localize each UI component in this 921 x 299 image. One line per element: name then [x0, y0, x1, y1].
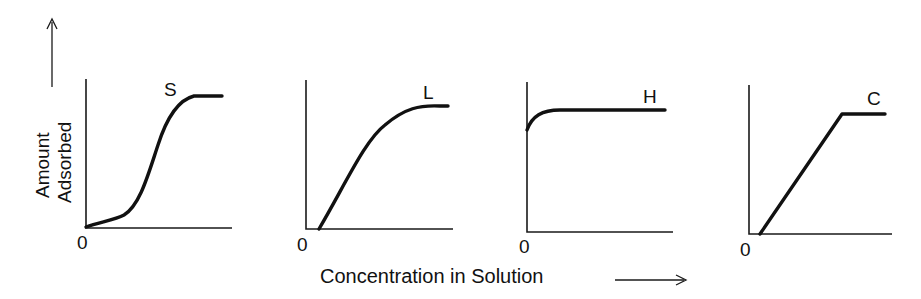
adsorption-isotherms-figure: Amount Adsorbed S 0 L 0 H 0 C 0 Concentr… — [0, 0, 921, 299]
panel-c-origin: 0 — [740, 239, 751, 260]
y-axis-label-line2: Adsorbed — [54, 122, 75, 203]
x-axis-arrow — [615, 275, 686, 285]
y-axis-label-line1: Amount — [32, 132, 53, 198]
panel-s-origin: 0 — [77, 232, 88, 253]
panel-l-curve — [319, 106, 448, 229]
panel-h: H 0 — [519, 82, 673, 257]
x-axis-label: Concentration in Solution — [320, 265, 543, 287]
panel-s: S 0 — [77, 79, 232, 253]
panel-s-curve — [86, 96, 222, 227]
y-axis-arrow — [47, 19, 57, 87]
panel-l-origin: 0 — [297, 234, 308, 255]
panel-s-label: S — [164, 79, 177, 100]
panel-h-origin: 0 — [519, 236, 530, 257]
panel-l: L 0 — [297, 80, 453, 255]
panel-h-label: H — [643, 86, 657, 107]
panel-l-label: L — [423, 82, 434, 103]
panel-s-axes — [86, 79, 232, 228]
panel-c-curve — [760, 114, 885, 234]
panel-h-curve — [527, 110, 665, 130]
panel-c: C 0 — [740, 85, 892, 260]
panel-c-label: C — [867, 88, 881, 109]
